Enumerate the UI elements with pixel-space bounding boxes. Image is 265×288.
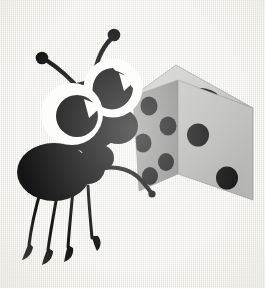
illustration-canvas: Cartoon ant pushing a die: [0, 0, 265, 288]
die-face-front: [178, 80, 253, 200]
ant-leg: [88, 186, 92, 238]
die-pip: [135, 134, 152, 153]
die-pip: [216, 167, 238, 190]
ant-foot: [22, 243, 33, 260]
ant-foot: [64, 245, 73, 262]
eye-pupil: [56, 95, 98, 137]
die: [133, 65, 253, 200]
left-eye: [41, 83, 103, 145]
die-pip: [141, 97, 158, 116]
ant-feet: [22, 236, 101, 265]
ant-foot: [42, 248, 53, 265]
die-pip: [158, 153, 174, 171]
ant-and-die-artwork: [0, 0, 265, 288]
ant-antenna-tip: [108, 29, 121, 42]
die-pip: [160, 117, 177, 136]
ant-antenna-tip: [36, 52, 49, 65]
ant: [17, 29, 156, 265]
die-pip: [187, 124, 209, 147]
ant-foot: [92, 236, 101, 251]
